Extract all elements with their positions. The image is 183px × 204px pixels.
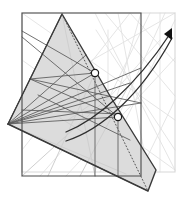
- node-marker-upper: [91, 69, 98, 76]
- node-marker-lower: [114, 113, 121, 120]
- chord-light-2: [105, 13, 175, 96]
- geometry-figure-svg: [0, 0, 183, 204]
- figure-canvas: [0, 0, 183, 204]
- trajectory-arrowhead: [164, 28, 172, 40]
